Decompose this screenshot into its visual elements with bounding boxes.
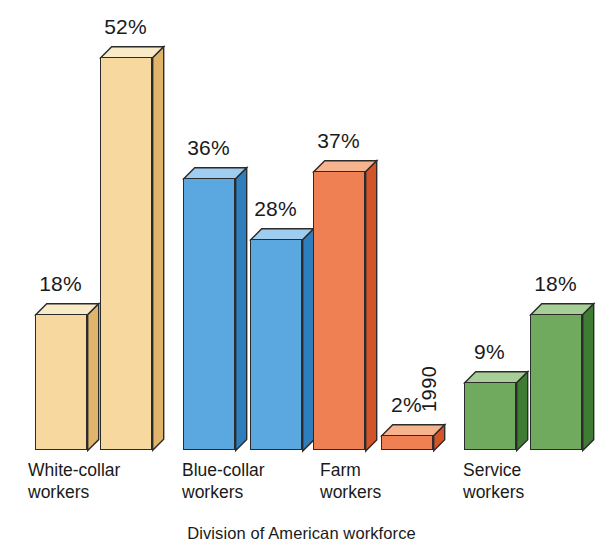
value-label-farm-1900: 37% bbox=[307, 129, 370, 153]
bar-chart: 18%190052%1990White-collar workers36%190… bbox=[0, 0, 603, 555]
bar-front-face bbox=[530, 314, 582, 450]
bar-service-1900 bbox=[464, 382, 516, 450]
bar-white-collar-1990 bbox=[100, 57, 152, 450]
value-label-blue-collar-1900: 36% bbox=[177, 136, 240, 160]
bar-side-face bbox=[152, 46, 163, 450]
bar-farm-1900 bbox=[313, 171, 365, 450]
bar-white-collar-1900 bbox=[35, 314, 87, 450]
bar-side-face bbox=[87, 303, 98, 450]
chart-caption: Division of American workforce bbox=[0, 524, 603, 543]
bar-front-face bbox=[35, 314, 87, 450]
year-label-farm-1990: 1990 bbox=[418, 365, 441, 412]
bar-side-face bbox=[302, 228, 313, 450]
category-label-farm: Farm workers bbox=[320, 459, 381, 503]
value-label-white-collar-1990: 52% bbox=[94, 15, 157, 39]
value-label-service-1900: 9% bbox=[458, 340, 521, 364]
category-label-service: Service workers bbox=[463, 459, 524, 503]
bar-blue-collar-1900 bbox=[183, 178, 235, 450]
bar-side-face bbox=[235, 167, 246, 450]
bar-blue-collar-1990 bbox=[250, 239, 302, 450]
category-label-blue-collar: Blue-collar workers bbox=[182, 459, 265, 503]
bar-service-1990 bbox=[530, 314, 582, 450]
value-label-white-collar-1900: 18% bbox=[29, 272, 92, 296]
bar-front-face bbox=[100, 57, 152, 450]
bar-front-face bbox=[183, 178, 235, 450]
bar-front-face bbox=[313, 171, 365, 450]
value-label-blue-collar-1990: 28% bbox=[244, 197, 307, 221]
bar-side-face bbox=[433, 424, 444, 450]
bar-front-face bbox=[464, 382, 516, 450]
bar-front-face bbox=[381, 435, 433, 450]
value-label-service-1990: 18% bbox=[524, 272, 587, 296]
plot-area: 18%190052%1990White-collar workers36%190… bbox=[0, 0, 603, 505]
category-label-white-collar: White-collar workers bbox=[28, 459, 120, 503]
bar-side-face bbox=[516, 371, 527, 450]
bar-front-face bbox=[250, 239, 302, 450]
bar-farm-1990 bbox=[381, 435, 433, 450]
bar-side-face bbox=[365, 160, 376, 450]
bar-side-face bbox=[582, 303, 593, 450]
